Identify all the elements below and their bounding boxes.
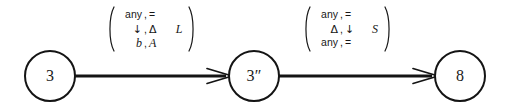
transition-row: any , =: [116, 8, 187, 22]
row-read-symbol: any: [312, 36, 338, 48]
left-parenthesis-icon: [106, 6, 115, 52]
state-node-8[interactable]: 8: [434, 50, 486, 102]
transition-row: any , =: [312, 36, 383, 50]
transition-row: ↓ , Δ L: [116, 22, 187, 36]
transition-arrow-3doubleprime-to-8: [278, 66, 438, 86]
row-write-symbol: A: [149, 36, 165, 51]
left-parenthesis-icon: [302, 6, 311, 52]
row-separator: ,: [338, 8, 345, 20]
row-separator: ,: [338, 36, 345, 48]
row-move-symbol: S: [361, 22, 383, 37]
row-read-symbol: b: [116, 36, 142, 51]
transition-row: b , A: [116, 36, 187, 50]
row-write-symbol: =: [149, 8, 165, 20]
row-write-symbol: ↓: [345, 23, 361, 36]
row-write-symbol: =: [345, 36, 361, 48]
transition-label-3-to-3doubleprime: any , = ↓ , Δ L b , A: [106, 6, 197, 52]
row-read-symbol: Δ: [312, 23, 338, 36]
row-separator: ,: [142, 8, 149, 20]
transition-row: any , =: [312, 8, 383, 22]
state-node-3-double-prime[interactable]: 3″: [228, 50, 280, 102]
row-separator: ,: [142, 23, 149, 35]
row-separator: ,: [338, 23, 345, 35]
row-read-symbol: any: [312, 8, 338, 20]
row-separator: ,: [142, 37, 149, 49]
row-read-symbol: ↓: [116, 23, 142, 36]
transition-row: Δ , ↓ S: [312, 22, 383, 36]
right-parenthesis-icon: [384, 6, 393, 52]
transition-matrix: any , = Δ , ↓ S any , =: [311, 6, 384, 52]
right-parenthesis-icon: [188, 6, 197, 52]
state-transition-diagram: any , = ↓ , Δ L b , A: [0, 0, 520, 103]
state-node-3[interactable]: 3: [24, 50, 76, 102]
state-label: 3″: [246, 68, 261, 84]
row-move-symbol: L: [165, 22, 187, 37]
row-write-symbol: =: [345, 8, 361, 20]
transition-arrow-3-to-3doubleprime: [74, 66, 232, 86]
transition-label-3doubleprime-to-8: any , = Δ , ↓ S any , =: [302, 6, 393, 52]
state-label: 8: [456, 68, 464, 84]
row-write-symbol: Δ: [149, 23, 165, 36]
row-read-symbol: any: [116, 8, 142, 20]
transition-matrix: any , = ↓ , Δ L b , A: [115, 6, 188, 52]
state-label: 3: [46, 68, 54, 84]
